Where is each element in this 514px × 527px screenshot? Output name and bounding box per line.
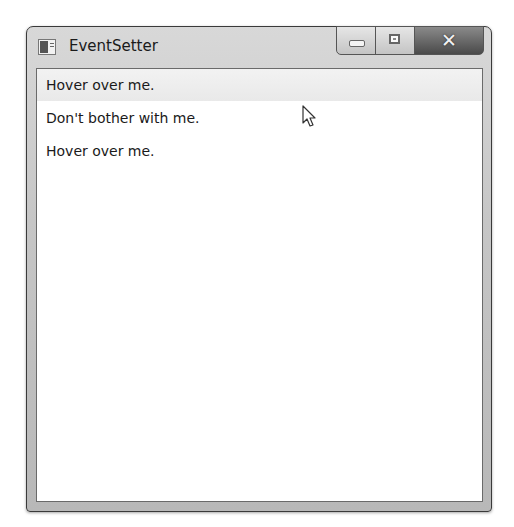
- app-window: EventSetter ✕ Hover over me. Don't bothe…: [26, 26, 492, 512]
- app-icon[interactable]: [38, 39, 56, 55]
- minimize-button[interactable]: [336, 26, 376, 55]
- window-title: EventSetter: [69, 37, 158, 55]
- text-item-dont-bother[interactable]: Don't bother with me.: [37, 102, 482, 134]
- mouse-cursor-icon: [302, 105, 318, 129]
- close-button[interactable]: ✕: [414, 26, 484, 55]
- text-item-hover-2[interactable]: Hover over me.: [37, 135, 482, 167]
- minimize-icon: [349, 40, 365, 47]
- text-item-hover-1[interactable]: Hover over me.: [37, 69, 482, 101]
- close-icon: ✕: [415, 29, 483, 51]
- maximize-button[interactable]: [375, 26, 415, 55]
- client-area: Hover over me. Don't bother with me. Hov…: [36, 68, 483, 502]
- title-bar[interactable]: EventSetter ✕: [27, 27, 491, 67]
- maximize-icon: [389, 34, 400, 44]
